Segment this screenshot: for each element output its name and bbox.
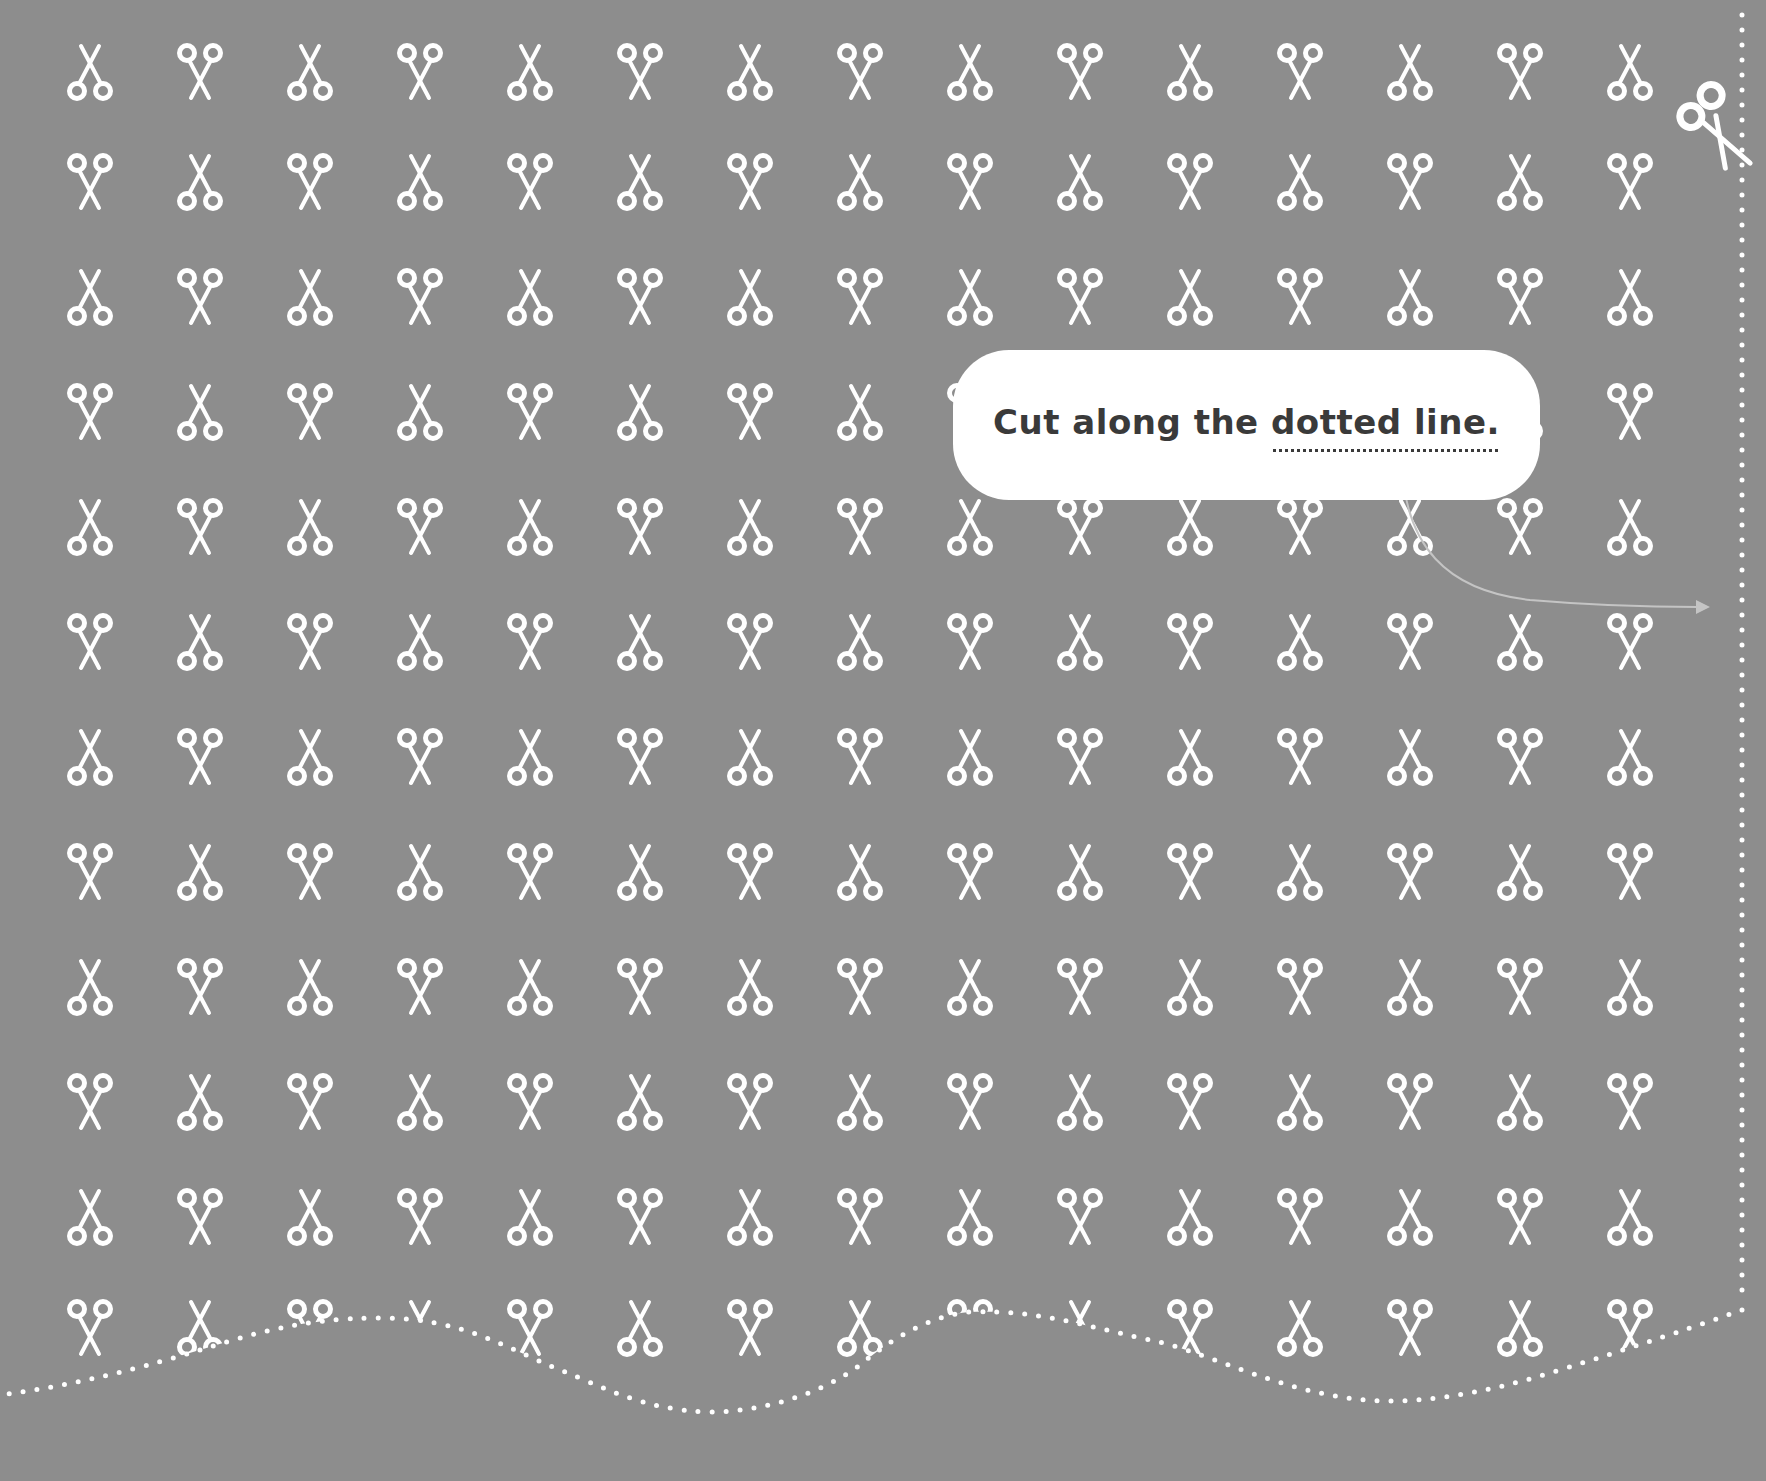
scissors-icon	[840, 1191, 881, 1244]
scissors-icon	[70, 1076, 111, 1129]
scissors-icon	[1280, 616, 1321, 669]
scissors-icon	[730, 961, 771, 1014]
scissors-icon	[1610, 501, 1651, 554]
scissors-icon	[620, 46, 661, 99]
scissors-icon	[510, 501, 551, 554]
scissors-icon	[730, 271, 771, 324]
scissors-icon	[1390, 1076, 1431, 1129]
scissors-icon	[1390, 46, 1431, 99]
scissors-icon	[730, 846, 771, 899]
scissors-icon	[70, 731, 111, 784]
scissors-icon	[510, 616, 551, 669]
scissors-icon	[70, 46, 111, 99]
scissors-icon	[1500, 961, 1541, 1014]
scissors-icon	[1280, 961, 1321, 1014]
scissors-icon	[290, 156, 331, 209]
scissors-icon	[1060, 156, 1101, 209]
scissors-icon	[1060, 1076, 1101, 1129]
scissors-icon	[730, 386, 771, 439]
scissors-icon	[400, 386, 441, 439]
scissors-icon	[1610, 46, 1651, 99]
scissors-icon	[180, 501, 221, 554]
scissors-icon	[840, 731, 881, 784]
scissors-icon	[290, 961, 331, 1014]
scissors-icon	[1060, 616, 1101, 669]
scissors-icon	[950, 156, 991, 209]
scissors-icon	[1060, 1191, 1101, 1244]
scissors-icon	[1610, 386, 1651, 439]
pointer-arrow	[1403, 480, 1710, 614]
scissors-icon	[400, 156, 441, 209]
scissors-icon	[510, 271, 551, 324]
scissors-icon	[950, 1076, 991, 1129]
scissors-icon	[840, 1076, 881, 1129]
scissors-icon	[1170, 156, 1211, 209]
scissors-icon	[1500, 156, 1541, 209]
scissors-icon	[1060, 501, 1101, 554]
scissors-icon	[950, 616, 991, 669]
callout-text: Cut along the dotted line.	[953, 402, 1540, 442]
scissors-icon	[290, 616, 331, 669]
scissors-icon	[510, 731, 551, 784]
scissors-icon	[1500, 731, 1541, 784]
scissors-icon	[950, 271, 991, 324]
scissors-icon	[1500, 846, 1541, 899]
scissors-icon	[510, 156, 551, 209]
scissors-icon	[950, 501, 991, 554]
scissors-icon	[620, 501, 661, 554]
scissors-icon	[950, 731, 991, 784]
scissors-icon	[1500, 501, 1541, 554]
scissors-icon	[1610, 271, 1651, 324]
scissors-icon	[1280, 46, 1321, 99]
scissors-icon	[1610, 616, 1651, 669]
scissors-icon	[70, 846, 111, 899]
scissors-icon	[1280, 271, 1321, 324]
scissors-icon	[840, 501, 881, 554]
scissors-icon	[1500, 1076, 1541, 1129]
scissors-icon	[290, 46, 331, 99]
scissors-icon	[1610, 846, 1651, 899]
scissors-icon	[950, 1302, 991, 1355]
scissors-icon	[620, 1076, 661, 1129]
scissors-icon	[180, 156, 221, 209]
scissors-icon	[400, 961, 441, 1014]
scissors-icon	[1170, 1191, 1211, 1244]
callout-text-emphasis: dotted line.	[1271, 402, 1500, 442]
scissors-icon	[620, 616, 661, 669]
scissors-icon	[400, 616, 441, 669]
scissors-icon	[290, 1302, 331, 1355]
scissors-icon	[840, 271, 881, 324]
scissors-icon	[1170, 846, 1211, 899]
scissors-icon	[840, 961, 881, 1014]
scissors-icon	[180, 961, 221, 1014]
scissors-icon	[180, 46, 221, 99]
scissors-icon	[1390, 731, 1431, 784]
scissors-icon	[400, 46, 441, 99]
scissors-icon	[510, 846, 551, 899]
scissors-icon	[180, 386, 221, 439]
scissors-icon	[70, 386, 111, 439]
scissors-icon	[840, 846, 881, 899]
scissors-icon	[1500, 1191, 1541, 1244]
scissors-icon	[730, 46, 771, 99]
scissors-icon	[290, 386, 331, 439]
scissors-icon	[1060, 271, 1101, 324]
scissors-icon	[620, 271, 661, 324]
scissors-icon	[620, 1191, 661, 1244]
scissors-icon	[1390, 1302, 1431, 1355]
scissors-icon	[620, 1302, 661, 1355]
scissors-icon	[510, 1191, 551, 1244]
scissors-icon	[1170, 501, 1211, 554]
scissors-icon	[290, 501, 331, 554]
scissors-icon	[1280, 731, 1321, 784]
scissors-icon	[730, 156, 771, 209]
scissors-icon	[1280, 846, 1321, 899]
scissors-icon	[1280, 1191, 1321, 1244]
dotted-cut-line-wavy	[0, 1310, 1742, 1412]
scissors-icon	[290, 271, 331, 324]
scissors-icon	[1610, 731, 1651, 784]
scissors-icon	[400, 1191, 441, 1244]
scissors-icon	[1390, 156, 1431, 209]
scissors-icon	[70, 1302, 111, 1355]
scissors-icon	[1390, 961, 1431, 1014]
